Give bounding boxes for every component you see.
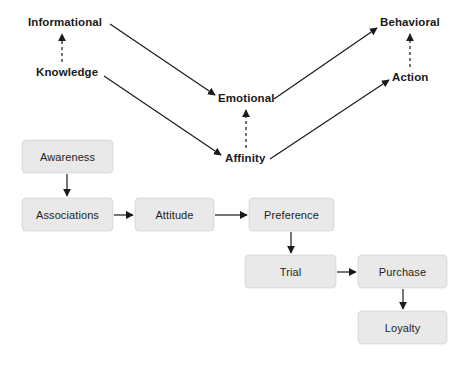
- node-trial-label: Trial: [280, 266, 301, 278]
- label-behavioral: Behavioral: [380, 16, 440, 28]
- edge-emotional-to-behavioral: [274, 28, 377, 99]
- label-affinity: Affinity: [225, 152, 265, 164]
- node-attitude-label: Attitude: [155, 209, 193, 221]
- node-trial[interactable]: Trial: [245, 255, 336, 288]
- label-informational: Informational: [28, 16, 102, 28]
- label-action: Action: [392, 71, 428, 83]
- node-awareness-label: Awareness: [40, 151, 95, 163]
- node-awareness[interactable]: Awareness: [22, 140, 113, 173]
- node-associations[interactable]: Associations: [22, 198, 113, 231]
- label-emotional: Emotional: [218, 92, 275, 104]
- node-loyalty[interactable]: Loyalty: [358, 311, 447, 344]
- edge-affinity-to-action: [270, 80, 389, 159]
- edge-knowledge-to-affinity: [104, 76, 221, 155]
- node-purchase-label: Purchase: [379, 266, 426, 278]
- label-knowledge: Knowledge: [36, 66, 98, 78]
- node-loyalty-label: Loyalty: [385, 322, 421, 334]
- node-associations-label: Associations: [36, 209, 99, 221]
- edge-informational-to-emotional: [110, 24, 215, 95]
- node-preference[interactable]: Preference: [249, 198, 334, 231]
- node-purchase[interactable]: Purchase: [358, 255, 447, 288]
- node-preference-label: Preference: [264, 209, 319, 221]
- node-attitude[interactable]: Attitude: [135, 198, 214, 231]
- diagram-canvas: Informational Knowledge Emotional Affini…: [0, 0, 468, 367]
